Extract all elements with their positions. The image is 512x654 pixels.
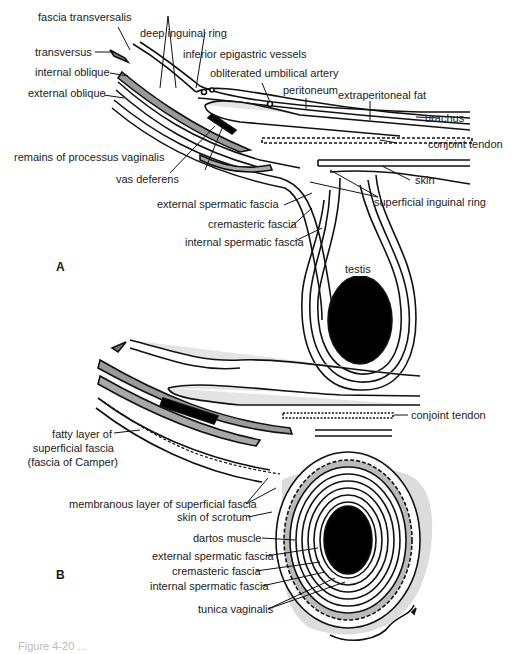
label-transversus: transversus [35,46,92,59]
label-skin: skin [415,174,435,187]
label-deep-inguinal-ring: deep inguinal ring [140,27,227,40]
panel-letter-a: A [56,260,65,274]
label-fatty-layer-3: (fascia of Camper) [10,456,118,469]
label-remains-of-processus-vaginalis: remains of processus vaginalis [14,151,164,164]
label-internal-spermatic-fascia-a: internal spermatic fascia [185,236,304,249]
panel-letter-b: B [56,568,65,582]
figure-caption: Figure 4-20 ... [18,640,86,652]
label-obliterated-umbilical-artery: obliterated umbilical artery [210,67,338,80]
label-fatty-layer-1: fatty layer of [20,428,112,441]
label-superficial-inguinal-ring: superficial inguinal ring [374,196,486,209]
label-testis: testis [341,262,375,276]
label-conjoint-tendon-b: conjoint tendon [411,409,486,422]
label-skin-of-scrotum: skin of scrotum [177,511,251,524]
panel-b-drawing [96,340,432,640]
label-internal-oblique: internal oblique [35,66,110,79]
label-internal-spermatic-fascia-b: internal spermatic fascia [150,580,269,593]
label-inferior-epigastric-vessels: inferior epigastric vessels [183,48,307,61]
label-fatty-layer-2: superficial fascia [10,442,114,455]
label-cremasteric-fascia-a: cremasteric fascia [208,218,297,231]
label-tunica-vaginalis: tunica vaginalis [198,603,273,616]
label-external-spermatic-fascia-a: external spermatic fascia [157,198,279,211]
label-extraperitoneal-fat: extraperitoneal fat [338,89,426,102]
label-fascia-transversalis: fascia transversalis [38,11,132,24]
label-external-oblique: external oblique [28,87,106,100]
label-cremasteric-fascia-b: cremasteric fascia [172,565,261,578]
label-vas-deferens: vas deferens [116,173,179,186]
label-urachus: urachus [425,112,464,125]
label-membranous-layer: membranous layer of superficial fascia [69,498,257,511]
label-peritoneum: peritoneum [283,84,338,97]
label-conjoint-tendon-a: conjoint tendon [428,138,503,151]
label-external-spermatic-fascia-b: external spermatic fascia [152,550,274,563]
label-dartos-muscle: dartos muscle [193,532,261,545]
